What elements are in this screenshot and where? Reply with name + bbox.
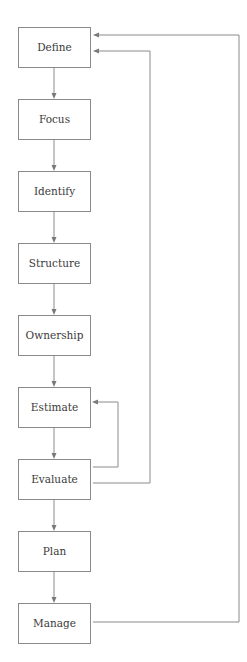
node-estimate: Estimate [19,388,91,428]
node-define: Define [19,28,91,68]
node-label: Estimate [31,401,78,413]
node-evaluate: Evaluate [19,460,91,500]
node-structure: Structure [19,244,91,284]
node-label: Define [37,41,72,53]
node-focus: Focus [19,100,91,140]
feedback-manage-to-define [93,33,239,623]
node-identify: Identify [19,172,91,212]
node-label: Evaluate [31,473,78,485]
flowchart-diagram: Define Focus Identify Structure Ownershi… [0,0,247,662]
node-label: Ownership [26,329,84,341]
node-ownership: Ownership [19,316,91,356]
node-manage: Manage [19,604,91,644]
node-label: Plan [43,545,67,557]
feedback-evaluate-to-estimate [92,400,118,468]
node-label: Manage [33,617,76,629]
node-label: Focus [39,113,70,125]
node-label: Structure [29,257,80,269]
node-label: Identify [34,185,75,197]
feedback-evaluate-to-define [93,49,150,484]
node-plan: Plan [19,532,91,572]
